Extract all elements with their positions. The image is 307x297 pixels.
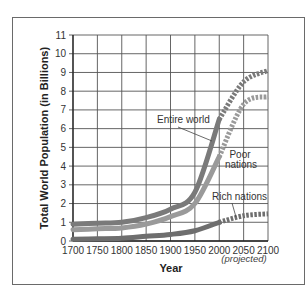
y-axis-title: Total World Population (in Billions) (38, 47, 50, 230)
population-line-chart: 01234567891011 1700175018001850190019502… (0, 0, 307, 297)
y-tick-label: 7 (60, 104, 66, 115)
y-tick-label: 5 (60, 142, 66, 153)
y-tick-label: 9 (60, 67, 66, 78)
label-entire-world: Entire world (157, 114, 210, 125)
y-tick-label: 4 (60, 161, 66, 172)
y-tick-label: 2 (60, 198, 66, 209)
x-tick-label: 1750 (86, 245, 109, 256)
y-tick-label: 8 (60, 86, 66, 97)
y-axis-ticks: 01234567891011 (55, 30, 67, 247)
series-labels: Entire world Poor nations Rich nations (157, 114, 267, 217)
x-tick-label: 1800 (111, 245, 134, 256)
label-rich-nations: Rich nations (212, 191, 267, 202)
y-tick-label: 6 (60, 123, 66, 134)
y-tick-label: 1 (60, 217, 66, 228)
label-poor-nations-line2: nations (225, 159, 257, 170)
x-axis-title: Year (159, 262, 183, 274)
x-tick-label: 1850 (135, 245, 158, 256)
x-tick-label: 1900 (159, 245, 182, 256)
y-tick-label: 3 (60, 179, 66, 190)
leader-line-rich-nations (232, 203, 236, 217)
y-tick-label: 10 (55, 48, 67, 59)
x-axis-note: (projected) (221, 253, 266, 264)
x-tick-label: 1950 (184, 245, 207, 256)
y-tick-label: 11 (56, 30, 67, 41)
x-tick-label: 1700 (62, 245, 85, 256)
